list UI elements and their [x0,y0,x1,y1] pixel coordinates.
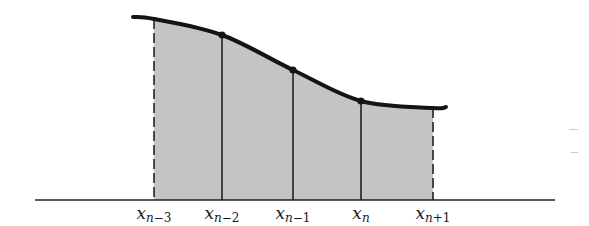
point-x_n [357,97,364,104]
diagram-canvas [0,0,589,226]
stray-mark [569,129,578,130]
label-x_n+1: xn+1 [415,203,450,225]
point-x_n-2 [218,31,225,38]
label-x_n-1: xn−1 [275,203,310,225]
label-x_n-3: xn−3 [136,203,171,225]
label-x_n: xn [352,203,369,225]
stray-mark [571,152,578,153]
label-x_n-2: xn−2 [204,203,239,225]
point-x_n-1 [289,66,296,73]
